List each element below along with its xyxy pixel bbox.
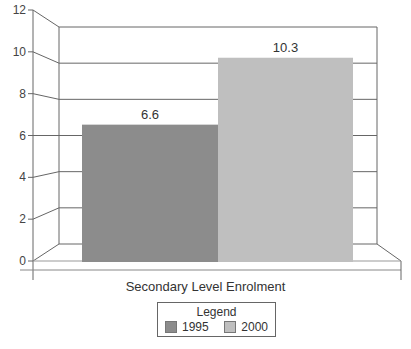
bar-chart: 0246810126.610.3 bbox=[0, 0, 411, 349]
bar-2000 bbox=[218, 58, 353, 262]
y-tick-label: 4 bbox=[19, 170, 26, 184]
x-axis-label: Secondary Level Enrolment bbox=[0, 279, 411, 294]
y-tick-label: 12 bbox=[13, 3, 27, 17]
bar-1995 bbox=[82, 125, 218, 262]
y-tick-label: 2 bbox=[19, 212, 26, 226]
y-tick-label: 0 bbox=[19, 254, 26, 268]
legend-title: Legend bbox=[158, 305, 275, 319]
bar-value-label: 6.6 bbox=[141, 107, 159, 122]
legend: Legend 1995 2000 bbox=[157, 302, 276, 337]
legend-label-2000: 2000 bbox=[241, 320, 268, 334]
bar-value-label: 10.3 bbox=[273, 40, 298, 55]
legend-item-1995: 1995 bbox=[165, 320, 209, 334]
legend-label-1995: 1995 bbox=[182, 320, 209, 334]
legend-item-2000: 2000 bbox=[224, 320, 268, 334]
legend-swatch-2000 bbox=[224, 321, 236, 333]
y-tick-label: 10 bbox=[13, 45, 27, 59]
y-tick-label: 6 bbox=[19, 129, 26, 143]
legend-swatch-1995 bbox=[165, 321, 177, 333]
y-tick-label: 8 bbox=[19, 87, 26, 101]
chart-bars bbox=[82, 58, 353, 262]
